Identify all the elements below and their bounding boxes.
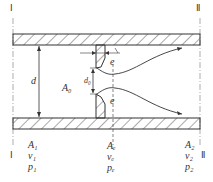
- section-marker-1-top: Ⅰ: [10, 3, 13, 13]
- pipe-wall-top: [13, 34, 200, 45]
- section1-velocity: v₁: [28, 151, 36, 161]
- section-marker-2-bottom: Ⅱ: [201, 150, 205, 160]
- orifice-plate-bottom: [96, 94, 105, 118]
- orifice-diameter-label: d₀: [84, 76, 91, 86]
- orifice-plate-top: [96, 45, 105, 68]
- vena-contracta-label-top: e: [110, 57, 114, 67]
- section-e-area: Aₑ: [107, 141, 116, 151]
- orifice-area-label: A₀: [62, 83, 72, 93]
- section2-pressure: p₂: [185, 162, 193, 172]
- section-e-velocity: vₑ: [107, 152, 114, 162]
- section-marker-2-top: Ⅱ: [196, 3, 200, 13]
- vena-contracta-label-bottom: e: [110, 96, 114, 106]
- pipe-diameter-label: d: [31, 76, 36, 86]
- pipe-wall-bottom: [13, 118, 200, 129]
- section2-area: A₂: [185, 140, 195, 150]
- section1-area: A₁: [28, 140, 38, 150]
- section2-velocity: v₂: [185, 151, 193, 161]
- section-marker-1-bottom: Ⅰ: [10, 150, 13, 160]
- section1-pressure: p₁: [28, 162, 36, 172]
- section-e-pressure: pₑ: [107, 163, 115, 173]
